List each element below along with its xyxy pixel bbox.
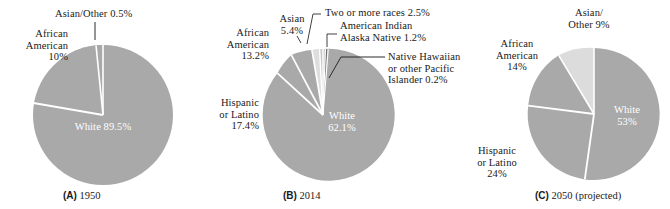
panel-b-label-two-or-more: Two or more races 2.5% bbox=[325, 7, 460, 19]
panel-c-caption-letter: (C) bbox=[535, 190, 549, 201]
panel-b-leader-asian bbox=[297, 36, 301, 43]
panel-b-caption-letter: (B) bbox=[283, 190, 297, 201]
panel-b-label-asian: Asian 5.4% bbox=[271, 13, 313, 36]
demographics-pie-figure: African American 10% Asian/Other 0.5% Wh… bbox=[0, 0, 670, 209]
panel-c-2050: Asian/ Other 9% African American 14% His… bbox=[460, 0, 670, 209]
panel-c-label-asian-other: Asian/ Other 9% bbox=[554, 7, 624, 30]
panel-a-caption-text: 1950 bbox=[77, 190, 101, 201]
panel-c-caption-text: 2050 (projected) bbox=[549, 190, 621, 201]
panel-b-caption-text: 2014 bbox=[297, 190, 321, 201]
panel-a-label-african-american: African American 10% bbox=[2, 28, 68, 63]
panel-a-1950: African American 10% Asian/Other 0.5% Wh… bbox=[0, 0, 215, 209]
panel-a-label-asian-other: Asian/Other 0.5% bbox=[55, 8, 185, 20]
panel-b-label-white: White 62.1% bbox=[307, 110, 377, 134]
panel-b-label-hispanic: Hispanic or Latino 17.4% bbox=[195, 97, 259, 132]
panel-c-caption: (C) 2050 (projected) bbox=[535, 190, 621, 202]
panel-b-2014: Two or more races 2.5% American Indian A… bbox=[215, 0, 460, 209]
panel-a-label-white: White 89.5% bbox=[53, 121, 153, 133]
panel-b-caption: (B) 2014 bbox=[283, 190, 321, 202]
panel-c-label-white: White 53% bbox=[600, 104, 654, 128]
panel-c-label-hispanic: Hispanic or Latino 24% bbox=[464, 145, 530, 180]
panel-b-leader-american-indian bbox=[327, 34, 337, 47]
panel-b-label-american-indian: American Indian Alaska Native 1.2% bbox=[340, 20, 460, 43]
panel-a-caption-letter: (A) bbox=[63, 190, 77, 201]
panel-c-slice-hispanic bbox=[528, 106, 594, 180]
panel-a-caption: (A) 1950 bbox=[63, 190, 101, 202]
panel-b-label-african-american: African American 13.2% bbox=[207, 27, 269, 62]
panel-c-label-african-american: African American 14% bbox=[484, 38, 550, 73]
